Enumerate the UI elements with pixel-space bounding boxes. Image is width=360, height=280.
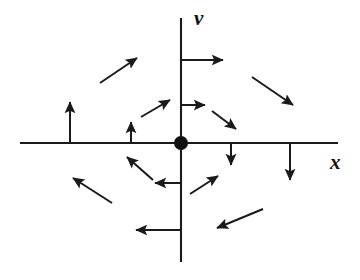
origin-equilibrium-dot [174, 136, 188, 150]
x-axis-label: x [330, 152, 341, 173]
arrow-inner-upper-right-diagonal [212, 111, 236, 129]
vector-field-canvas [0, 0, 360, 280]
v-axis-label: v [194, 8, 203, 29]
arrow-lower-left-diagonal [73, 178, 112, 203]
arrow-lower-right-diagonal [217, 209, 263, 228]
arrow-inner-lower-left-diagonal [127, 157, 153, 180]
phase-portrait-figure: v x [0, 0, 360, 280]
arrow-upper-right-diagonal [252, 77, 293, 105]
arrow-upper-left-diagonal [100, 58, 137, 83]
arrow-inner-upper-left-diagonal [141, 100, 170, 117]
arrow-inner-lower-right-diagonal [190, 176, 218, 194]
